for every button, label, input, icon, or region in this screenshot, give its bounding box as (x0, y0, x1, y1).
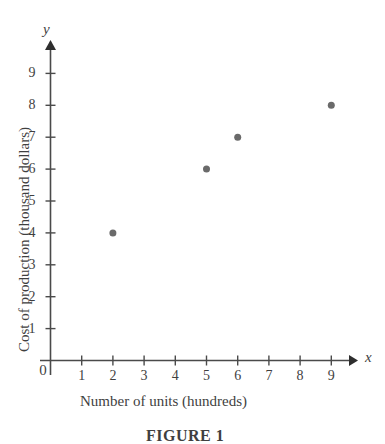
figure-container: 123456789 123456789 0 x y Number of unit… (0, 0, 385, 444)
x-axis-tick-label: 9 (322, 369, 340, 383)
y-axis-title: Cost of production (thousand dollars) (16, 127, 33, 352)
data-point (328, 102, 335, 109)
x-axis-variable-label: x (365, 350, 372, 365)
y-axis-variable-label: y (43, 22, 50, 37)
x-axis-tick-label: 5 (198, 369, 216, 383)
x-axis-tick-label: 6 (229, 369, 247, 383)
x-axis-tick-label: 7 (260, 369, 278, 383)
y-axis-tick-label: 9 (23, 66, 41, 80)
x-axis-tick-label: 4 (166, 369, 184, 383)
x-axis-title: Number of units (hundreds) (80, 393, 247, 410)
data-point (234, 134, 241, 141)
data-points-group (109, 102, 334, 237)
origin-label: 0 (34, 363, 52, 378)
x-axis-tick-label: 8 (291, 369, 309, 383)
data-point (109, 229, 116, 236)
figure-caption: FIGURE 1 (146, 427, 224, 444)
x-axis-tick-label: 1 (73, 369, 91, 383)
data-point (203, 166, 210, 173)
x-axis-tick-label: 2 (104, 369, 122, 383)
x-axis-arrowhead (349, 355, 358, 366)
y-axis-arrowhead (45, 40, 56, 50)
x-axis-tick-label: 3 (135, 369, 153, 383)
y-axis-tick-label: 8 (23, 98, 41, 112)
axes-group (40, 40, 358, 375)
